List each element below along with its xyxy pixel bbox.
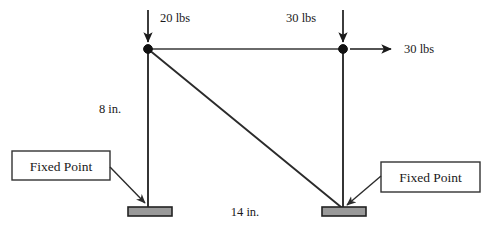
callout-fixed-point-right: Fixed Point (347, 162, 480, 205)
dimension-label-span: 14 in. (231, 205, 259, 219)
right-support-base (322, 207, 366, 216)
callout-fixed-point-left: Fixed Point (12, 151, 145, 203)
truss-diagram: 20 lbs 30 lbs 30 lbs 8 in. 14 in. Fixed … (0, 0, 490, 234)
callout-right-label: Fixed Point (399, 170, 462, 185)
load-label-30lbs-down: 30 lbs (286, 11, 316, 25)
truss-members (148, 49, 343, 207)
load-label-30lbs-right: 30 lbs (404, 42, 434, 56)
callout-right-pointer (347, 176, 381, 205)
joint-left-node (144, 45, 153, 54)
member-diagonal-brace (148, 49, 341, 207)
callout-left-label: Fixed Point (30, 159, 93, 174)
joint-right-node (339, 45, 348, 54)
dimension-label-height: 8 in. (99, 102, 121, 116)
left-support-base (128, 207, 172, 216)
load-label-20lbs: 20 lbs (160, 11, 190, 25)
diagram-canvas: 20 lbs 30 lbs 30 lbs 8 in. 14 in. Fixed … (0, 0, 490, 234)
callout-left-pointer (110, 167, 145, 203)
